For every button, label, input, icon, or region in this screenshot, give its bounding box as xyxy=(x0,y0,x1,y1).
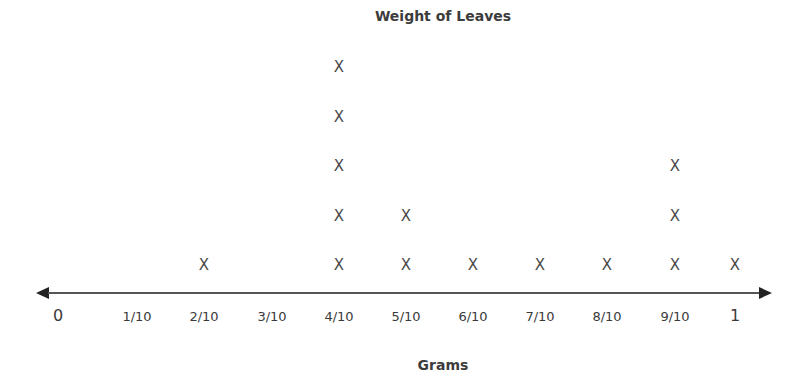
tick-label: 3/10 xyxy=(257,309,286,324)
x-mark-icon: X xyxy=(401,208,411,223)
x-mark-icon: X xyxy=(334,159,344,174)
x-mark-icon: X xyxy=(670,159,680,174)
x-mark-icon: X xyxy=(670,258,680,273)
number-line-axis xyxy=(48,292,760,294)
axis-right-arrow-icon xyxy=(759,287,772,299)
x-axis-label: Grams xyxy=(49,357,788,373)
x-mark-icon: X xyxy=(401,258,411,273)
x-mark-icon: X xyxy=(334,258,344,273)
x-mark-icon: X xyxy=(535,258,545,273)
tick-label: 2/10 xyxy=(189,309,218,324)
tick-label: 1 xyxy=(730,306,740,325)
tick-label: 7/10 xyxy=(525,309,554,324)
tick-label: 6/10 xyxy=(458,309,487,324)
x-mark-icon: X xyxy=(730,258,740,273)
tick-label: 8/10 xyxy=(592,309,621,324)
tick-label: 9/10 xyxy=(660,309,689,324)
tick-label: 4/10 xyxy=(324,309,353,324)
dot-plot-area: 01/102/103/104/105/106/107/108/109/101 X… xyxy=(0,0,788,391)
x-mark-icon: X xyxy=(602,258,612,273)
tick-label: 0 xyxy=(53,306,63,325)
tick-label: 1/10 xyxy=(122,309,151,324)
x-mark-icon: X xyxy=(670,208,680,223)
x-mark-icon: X xyxy=(334,60,344,75)
x-mark-icon: X xyxy=(199,258,209,273)
tick-label: 5/10 xyxy=(391,309,420,324)
x-mark-icon: X xyxy=(334,208,344,223)
x-mark-icon: X xyxy=(334,109,344,124)
x-mark-icon: X xyxy=(468,258,478,273)
